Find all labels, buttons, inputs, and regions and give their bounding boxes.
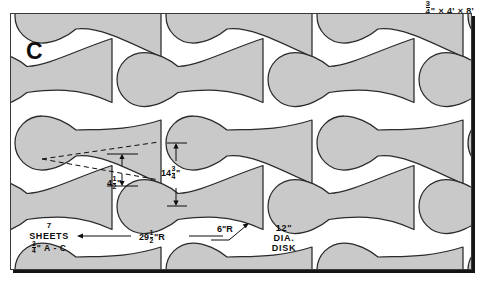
sheets-count: 7 (17, 222, 81, 231)
disk-size: 12" (258, 223, 310, 233)
plywood-grade: A - C (44, 243, 67, 253)
thickness-mark: " (37, 243, 42, 253)
sheets-unit: SHEETS (17, 231, 81, 241)
disk-sander-note: 12" DIA. DISK (258, 223, 310, 253)
sheets-required-note: 7 SHEETS 34" A - C (17, 222, 81, 255)
disk-word: DISK (258, 243, 310, 253)
sheets-grade-line: 34" A - C (17, 241, 81, 255)
plywood-sheet-frame: C 7 SHEETS 34" A - C 12" DIA. DISK 412" … (10, 13, 472, 270)
disk-dia-word: DIA. (258, 233, 310, 243)
cutting-layout-diagram: 34"×4'×8' (0, 0, 482, 281)
thickness-fraction: 34 (32, 241, 36, 255)
